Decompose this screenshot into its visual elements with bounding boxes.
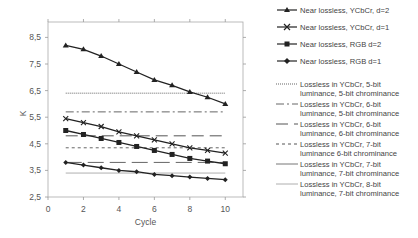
series-line: [66, 45, 226, 104]
x-axis-label: Cycle: [135, 217, 157, 227]
solid-line-icon: [276, 160, 298, 168]
x-tick-label: 10: [221, 204, 231, 214]
y-tick-label: 4,5: [29, 139, 41, 149]
y-tick-label: 5,5: [29, 112, 41, 122]
x-tick-label: 6: [152, 204, 157, 214]
legend-item: Lossless in YCbCr, 5-bit luminance, 5-bi…: [276, 80, 418, 100]
diamond-marker-icon: [276, 57, 298, 65]
x-tick-label: 0: [46, 204, 51, 214]
legend-label: luminance, 7-bit chrominance: [276, 169, 418, 178]
legend-item: Lossless in YCbCr, 7-bit luminance 6-bit…: [276, 140, 418, 160]
legend-item: Near lossless, YCbCr, d=1: [276, 23, 418, 40]
legend-item: Near lossless, YCbCr, d=2: [276, 6, 418, 23]
legend-label: luminance, 5-bit chrominance: [276, 89, 418, 98]
y-tick-label: 2,5: [29, 192, 41, 202]
legend-item: Lossless in YCbCr, 8-bit luminance, 7-bi…: [276, 180, 418, 200]
series-line: [66, 162, 226, 179]
legend-label: luminance, 5-bit chrominance: [276, 109, 418, 118]
x-tick-label: 8: [187, 204, 192, 214]
legend-item: Near lossless, RGB d=1: [276, 57, 418, 80]
legend-item: Near lossless, RGB d=2: [276, 40, 418, 57]
square-marker-icon: [276, 40, 298, 48]
y-axis-label: K: [18, 110, 28, 116]
y-tick-label: 8,5: [29, 32, 41, 42]
triangle-marker-icon: [276, 6, 298, 14]
legend-item: Lossless in YCbCr, 6-bit luminance, 6-bi…: [276, 120, 418, 140]
chart-legend: Near lossless, YCbCr, d=2 Near lossless,…: [276, 6, 418, 200]
dotted-line-icon: [276, 80, 298, 88]
legend-item: Lossless in YCbCr, 7-bit luminance, 7-bi…: [276, 160, 418, 180]
x-tick-label: 4: [117, 204, 122, 214]
y-tick-label: 6,5: [29, 86, 41, 96]
legend-label: luminance 6-bit chrominance: [276, 149, 418, 158]
y-tick-label: 7,5: [29, 59, 41, 69]
legend-item: Lossless in YCbCr, 6-bit luminance, 5-bi…: [276, 100, 418, 120]
x-marker-icon: [276, 23, 298, 31]
legend-label: luminance, 6-bit chrominance: [276, 129, 418, 138]
short-dash-line-icon: [276, 140, 298, 148]
x-tick-label: 2: [81, 204, 86, 214]
thin-line-icon: [276, 180, 298, 188]
legend-label: luminance, 7-bit chrominance: [276, 189, 418, 198]
y-tick-label: 3,5: [29, 165, 41, 175]
dash-dot-line-icon: [276, 100, 298, 108]
long-dash-line-icon: [276, 120, 298, 128]
